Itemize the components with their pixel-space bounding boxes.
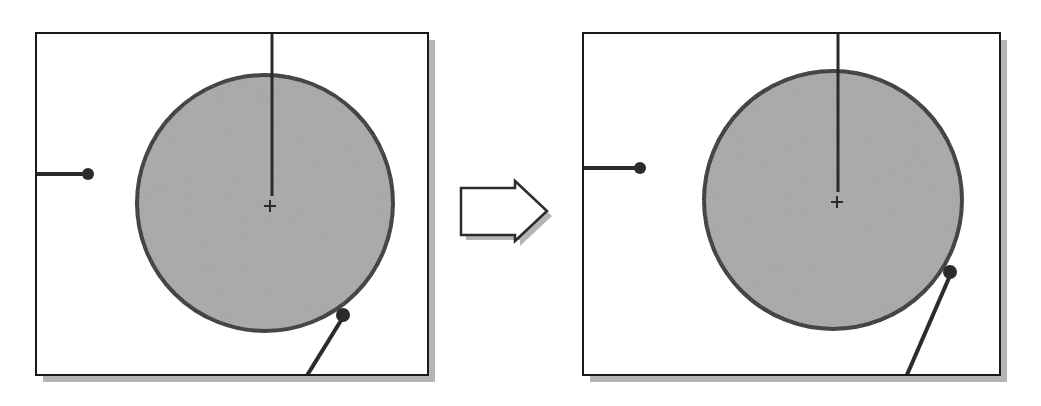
after-circle bbox=[704, 71, 962, 329]
before-circle bbox=[137, 75, 393, 331]
after-panel bbox=[583, 33, 1007, 384]
before-left-handle-dot[interactable] bbox=[82, 168, 94, 180]
after-left-handle-dot[interactable] bbox=[634, 162, 646, 174]
transition-arrow bbox=[461, 181, 552, 246]
figure-canvas: Circle with tangent construction line dr… bbox=[0, 0, 1041, 406]
before-after-figure bbox=[0, 0, 1041, 406]
after-circumference-dot[interactable] bbox=[943, 265, 957, 279]
before-panel bbox=[36, 33, 435, 382]
before-circumference-dot[interactable] bbox=[336, 308, 350, 322]
